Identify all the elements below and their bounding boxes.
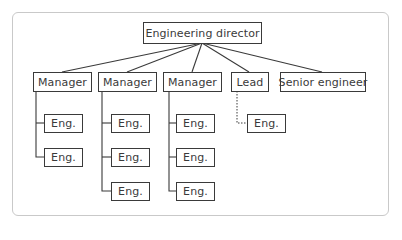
- director-node: Engineering director: [143, 22, 262, 44]
- engineer-node-lead-report: Eng.: [247, 114, 286, 133]
- manager-node-2: Manager: [98, 72, 157, 92]
- engineer-node: Eng.: [176, 114, 215, 133]
- engineer-node: Eng.: [111, 182, 150, 201]
- engineer-node: Eng.: [111, 148, 150, 167]
- engineer-node: Eng.: [176, 182, 215, 201]
- manager-node-1: Manager: [33, 72, 92, 92]
- engineer-node: Eng.: [176, 148, 215, 167]
- engineer-node: Eng.: [44, 114, 83, 133]
- manager-node-3: Manager: [163, 72, 222, 92]
- engineer-node: Eng.: [111, 114, 150, 133]
- lead-node: Lead: [231, 72, 269, 92]
- engineer-node: Eng.: [44, 148, 83, 167]
- senior-engineer-node: Senior engineer: [280, 72, 366, 92]
